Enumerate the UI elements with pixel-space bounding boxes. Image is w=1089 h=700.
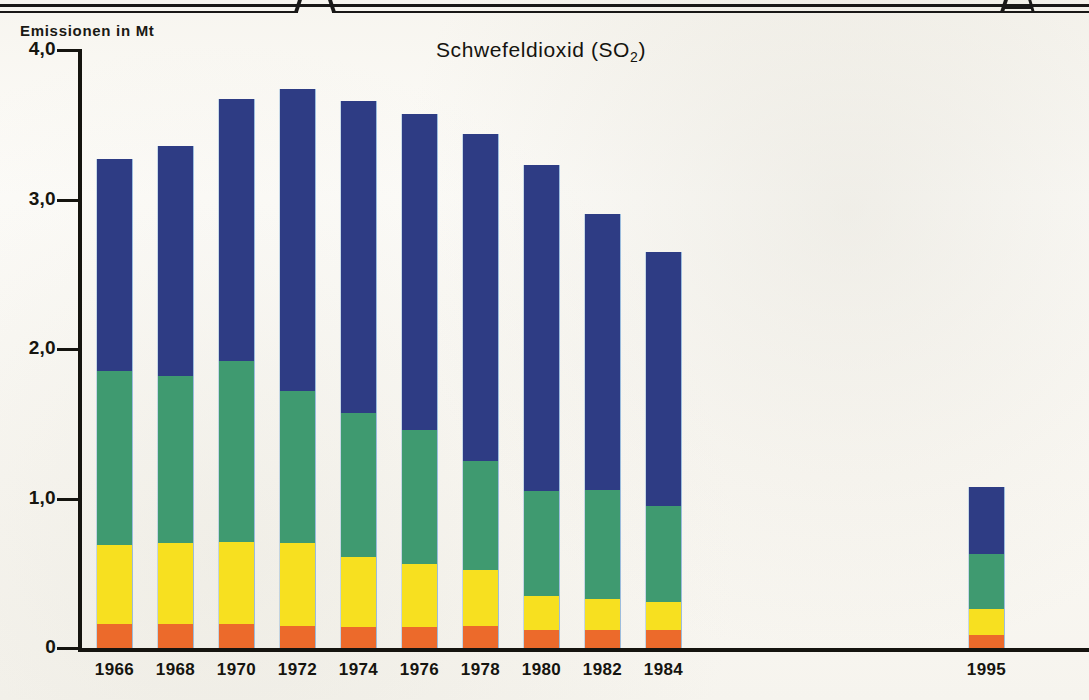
bar-segment: [402, 564, 437, 627]
bar-segment: [646, 506, 681, 602]
bar-segment: [280, 391, 315, 543]
y-axis-tick: [57, 199, 79, 202]
bar-segment: [219, 542, 254, 624]
bar-1966[interactable]: [97, 159, 132, 648]
x-axis-label-1984: 1984: [629, 660, 699, 680]
x-axis-label-1980: 1980: [507, 660, 577, 680]
bar-segment: [158, 624, 193, 648]
scan-artifact-line: [0, 4, 1089, 7]
bar-1976[interactable]: [402, 114, 437, 648]
chart-title-tail: ): [638, 38, 646, 61]
bar-segment: [585, 214, 620, 489]
chart-title-main: Schwefeldioxid (SO: [436, 38, 630, 61]
bar-segment: [341, 413, 376, 557]
bar-segment: [280, 626, 315, 648]
y-axis-title: Emissionen in Mt: [20, 22, 155, 39]
y-axis-tick: [57, 647, 79, 650]
scan-artifact-line: [0, 11, 298, 13]
x-axis-label-1966: 1966: [80, 660, 150, 680]
x-axis-label-1974: 1974: [324, 660, 394, 680]
bar-segment: [463, 570, 498, 625]
bar-1972[interactable]: [280, 89, 315, 648]
x-axis-label-1995: 1995: [952, 660, 1022, 680]
bar-1968[interactable]: [158, 146, 193, 648]
bar-segment: [97, 624, 132, 648]
bar-segment: [969, 554, 1004, 609]
bar-segment: [402, 430, 437, 565]
bar-segment: [524, 630, 559, 648]
bar-segment: [97, 159, 132, 371]
scan-artifact-line: [332, 11, 1089, 13]
bar-1984[interactable]: [646, 252, 681, 648]
y-axis-tick-label: 4,0: [0, 38, 56, 60]
page-title: Schwefeldioxid (SO2): [436, 38, 646, 65]
bar-segment: [969, 609, 1004, 634]
bar-segment: [402, 114, 437, 429]
y-axis-tick: [57, 348, 79, 351]
bar-segment: [585, 490, 620, 599]
bar-segment: [463, 461, 498, 570]
bar-segment: [97, 371, 132, 544]
bar-segment: [585, 630, 620, 648]
bar-segment: [524, 491, 559, 596]
bar-segment: [158, 376, 193, 543]
bar-segment: [969, 487, 1004, 554]
y-axis-tick-label: 1,0: [0, 487, 56, 509]
y-axis-tick-label: 0: [0, 636, 56, 658]
bar-segment: [158, 543, 193, 624]
bar-segment: [341, 557, 376, 627]
bar-1970[interactable]: [219, 99, 254, 648]
x-axis-label-1976: 1976: [385, 660, 455, 680]
scan-artifact-line: [1002, 7, 1032, 9]
bar-segment: [585, 599, 620, 630]
x-axis-label-1978: 1978: [446, 660, 516, 680]
bar-segment: [219, 624, 254, 648]
bar-segment: [219, 99, 254, 361]
bar-segment: [97, 545, 132, 624]
x-axis-label-1972: 1972: [263, 660, 333, 680]
bar-1982[interactable]: [585, 214, 620, 648]
bar-segment: [280, 89, 315, 391]
bar-segment: [646, 630, 681, 648]
bar-segment: [646, 252, 681, 506]
bar-segment: [341, 101, 376, 413]
x-axis-label-1968: 1968: [141, 660, 211, 680]
y-axis-tick-label: 3,0: [0, 188, 56, 210]
bar-1978[interactable]: [463, 134, 498, 648]
x-axis-label-1982: 1982: [568, 660, 638, 680]
bar-segment: [524, 165, 559, 491]
bar-segment: [646, 602, 681, 630]
bar-segment: [158, 146, 193, 376]
bar-segment: [524, 596, 559, 630]
bar-segment: [402, 627, 437, 648]
bar-segment: [219, 361, 254, 542]
bar-segment: [463, 134, 498, 461]
x-axis-label-1970: 1970: [202, 660, 272, 680]
bar-1995[interactable]: [969, 487, 1004, 648]
bar-segment: [341, 627, 376, 648]
y-axis-tick: [57, 498, 79, 501]
bar-1974[interactable]: [341, 101, 376, 648]
bar-segment: [463, 626, 498, 648]
y-axis-tick: [57, 49, 79, 52]
bar-segment: [280, 543, 315, 625]
bar-segment: [969, 635, 1004, 648]
bar-1980[interactable]: [524, 165, 559, 648]
y-axis-tick-label: 2,0: [0, 337, 56, 359]
x-axis-line: [78, 648, 1089, 652]
so2-emissions-stacked-bar-chart: Emissionen in Mt Schwefeldioxid (SO2) 01…: [0, 0, 1089, 700]
